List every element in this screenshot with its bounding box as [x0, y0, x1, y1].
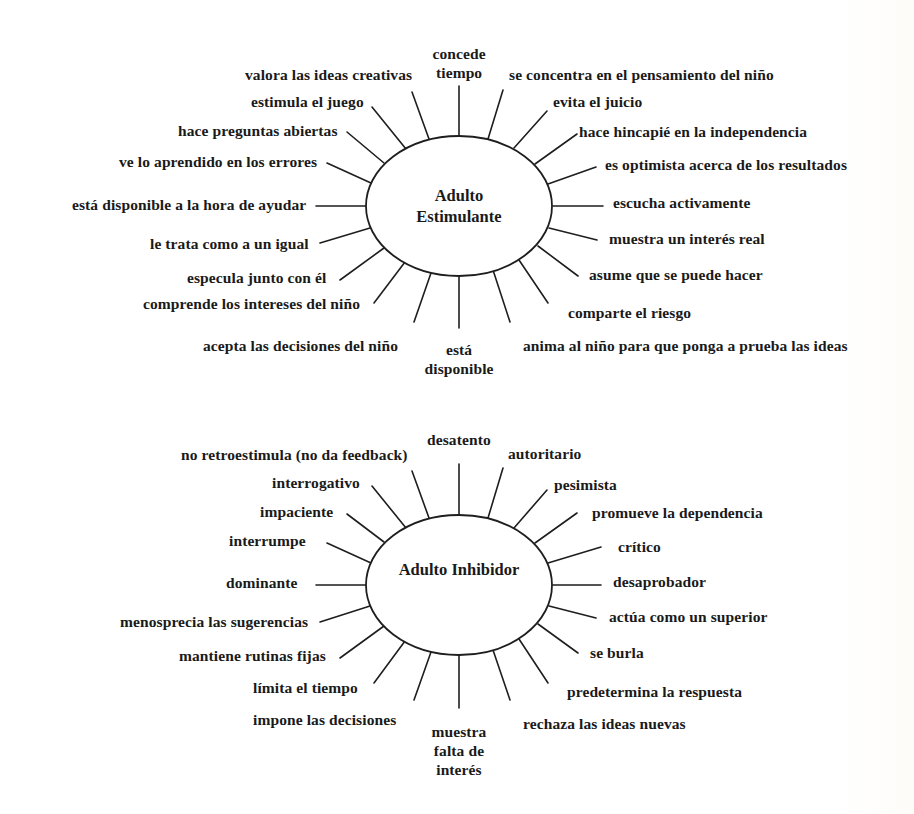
hub-title-line1: Adulto: [366, 185, 552, 206]
spoke-label: desatento: [427, 430, 491, 449]
spoke-line: [412, 92, 429, 139]
spoke-line: [535, 134, 577, 164]
spoke-line: [347, 132, 384, 163]
spoke-line: [538, 246, 578, 276]
spoke-label: escucha activamente: [613, 193, 751, 212]
spoke-line: [374, 641, 405, 683]
spoke-label: menosprecia las sugerencias: [120, 612, 308, 631]
spoke-label: se burla: [590, 643, 644, 662]
hub-title-line2: Estimulante: [366, 206, 552, 227]
spoke-label: asume que se puede hacer: [589, 265, 763, 284]
spoke-label: interrogativo: [272, 473, 360, 492]
spoke-line: [493, 270, 510, 322]
spoke-label: actúa como un superior: [609, 607, 768, 626]
spoke-line: [320, 606, 370, 622]
spoke-line: [549, 228, 597, 240]
spoke-line: [327, 543, 371, 563]
spoke-line: [414, 273, 431, 322]
spoke-label: desaprobador: [613, 572, 706, 591]
spoke-label: rechaza las ideas nuevas: [523, 714, 686, 733]
spoke-label: pesimista: [554, 475, 617, 494]
spoke-line: [320, 228, 370, 243]
spoke-line: [493, 650, 510, 700]
hub-title-line1: Adulto Inhibidor: [366, 559, 552, 580]
spoke-label: acepta las decisiones del niño: [203, 336, 398, 355]
spoke-label: ve lo aprendido en los errores: [119, 152, 317, 171]
spoke-label: impone las decisiones: [253, 710, 396, 729]
spoke-line: [535, 513, 577, 543]
spoke-label: concedetiempo: [433, 44, 486, 82]
spoke-label: crítico: [618, 537, 661, 556]
spoke-line: [519, 260, 548, 303]
spoke-line: [548, 547, 601, 563]
spoke-line: [372, 486, 406, 528]
diagram-adulto-estimulante: Adulto Estimulante concedetiempose conce…: [0, 0, 914, 400]
spoke-label: está disponible a la hora de ayudar: [72, 195, 306, 214]
spoke-line: [519, 639, 548, 683]
spoke-label: interrumpe: [229, 531, 306, 550]
spoke-label: anima al niño para que ponga a prueba la…: [523, 336, 848, 355]
spoke-label: muestra un interés real: [609, 229, 765, 248]
spoke-label: valora las ideas creativas: [245, 65, 412, 84]
spoke-label: hace hincapié en la independencia: [579, 122, 807, 141]
spoke-label: es optimista acerca de los resultados: [605, 155, 847, 174]
spoke-label: especula junto con él: [187, 268, 326, 287]
spoke-line: [548, 167, 596, 184]
spoke-label: evita el juicio: [553, 92, 642, 111]
spoke-label: límita el tiempo: [253, 678, 358, 697]
spoke-label: comparte el riesgo: [568, 303, 691, 322]
spoke-line: [549, 606, 596, 618]
spoke-line: [514, 490, 547, 528]
spoke-line: [340, 248, 384, 280]
spoke-line: [514, 111, 547, 148]
spoke-label: mantiene rutinas fijas: [179, 646, 326, 665]
spoke-line: [488, 468, 503, 518]
spoke-label: hace preguntas abiertas: [178, 121, 338, 140]
spoke-label: comprende los intereses del niño: [143, 294, 360, 313]
hub-title-inhibidor: Adulto Inhibidor: [366, 559, 552, 580]
diagram-adulto-inhibidor: Adulto Inhibidor desatentoautoritariopes…: [0, 400, 914, 814]
spoke-label: le trata como a un igual: [150, 234, 309, 253]
spoke-line: [488, 90, 503, 139]
spoke-line: [414, 652, 431, 700]
spoke-line: [374, 262, 405, 303]
spoke-label: no retroestimula (no da feedback): [181, 445, 408, 464]
spoke-label: predetermina la respuesta: [567, 682, 742, 701]
spoke-label: muestrafalta deinterés: [432, 722, 487, 779]
spoke-label: se concentra en el pensamiento del niño: [509, 65, 774, 84]
spoke-label: dominante: [226, 573, 298, 592]
spoke-label: estádisponible: [425, 340, 494, 378]
hub-title-estimulante: Adulto Estimulante: [366, 185, 552, 227]
spoke-line: [347, 514, 384, 542]
spoke-line: [327, 163, 371, 183]
spoke-line: [412, 471, 429, 518]
spoke-label: impaciente: [260, 502, 333, 521]
hub-ellipse: [366, 515, 552, 655]
spoke-line: [372, 107, 406, 149]
spoke-label: autoritario: [508, 444, 581, 463]
spoke-line: [538, 624, 578, 653]
spoke-label: estimula el juego: [251, 92, 364, 111]
spoke-line: [340, 626, 384, 658]
spoke-label: promueve la dependencia: [592, 503, 763, 522]
